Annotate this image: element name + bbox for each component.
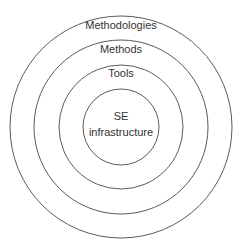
label-tools: Tools <box>108 67 134 79</box>
label-methodologies: Methodologies <box>85 19 157 31</box>
concentric-layers-diagram: Methodologies Methods Tools SE infrastru… <box>0 0 241 252</box>
layer-se-infrastructure: SE infrastructure <box>83 89 159 165</box>
label-methods: Methods <box>100 43 143 55</box>
label-se: SE <box>114 110 129 122</box>
label-infrastructure: infrastructure <box>89 126 153 138</box>
